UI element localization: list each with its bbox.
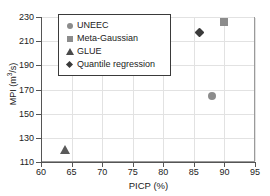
x-axis-tick-label: 80 [151,168,175,177]
x-axis-tick-label: 75 [121,168,145,177]
gridline-horizontal [42,114,254,115]
y-axis-tick [36,17,41,18]
legend-item-label: GLUE [77,47,102,56]
square-marker-icon [64,36,75,42]
legend-box: UNEEC Meta-Gaussian GLUE Quantile regres… [58,14,171,76]
gridline-vertical [255,18,256,161]
y-axis-tick-label: 110 [4,158,34,167]
y-axis-title-exponent: 3 [6,73,13,77]
gridline-horizontal [42,90,254,91]
data-point-triangle [60,145,70,154]
diamond-marker-icon [64,62,75,67]
legend-item-label: Meta-Gaussian [77,34,138,43]
y-axis-tick-label: 130 [4,134,34,143]
gridline-horizontal [42,138,254,139]
legend-item-meta-gaussian: Meta-Gaussian [64,32,166,45]
y-axis-tick [36,65,41,66]
x-axis-title: PICP (%) [41,180,256,191]
x-axis-tick-label: 65 [60,168,84,177]
y-axis-tick-label: 150 [4,110,34,119]
legend-item-glue: GLUE [64,45,166,58]
circle-marker-icon [64,23,75,29]
legend-item-quantile-regression: Quantile regression [64,58,166,71]
y-axis-line [41,17,42,163]
y-axis-tick [36,41,41,42]
x-axis-tick-label: 60 [29,168,53,177]
y-axis-tick-label: 170 [4,86,34,95]
y-axis-tick-label: 230 [4,13,34,22]
x-axis-tick-label: 70 [90,168,114,177]
legend-item-label: UNEEC [77,21,109,30]
legend-item-uneec: UNEEC [64,19,166,32]
y-axis-tick [36,114,41,115]
y-axis-tick [36,90,41,91]
legend-item-label: Quantile regression [77,60,155,69]
x-axis-tick-label: 95 [243,168,267,177]
y-axis-tick [36,138,41,139]
scatter-chart-figure: MPI (m3/s) PICP (%) UNEEC Meta-Gaussian … [0,0,270,196]
data-point-square [220,18,228,26]
triangle-marker-icon [64,48,75,55]
x-axis-tick-label: 85 [182,168,206,177]
x-axis-tick-label: 90 [212,168,236,177]
y-axis-tick-label: 190 [4,61,34,70]
y-axis-tick-label: 210 [4,37,34,46]
data-point-circle [208,92,216,100]
